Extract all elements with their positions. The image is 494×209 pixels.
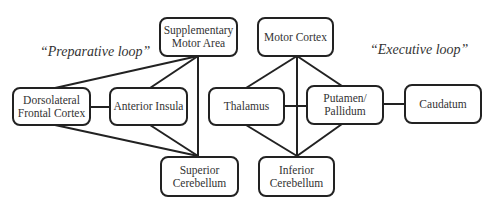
node-label: Caudatum xyxy=(419,98,466,111)
node-label: Pallidum xyxy=(324,105,366,117)
edge-dlpfc-supcereb xyxy=(55,125,198,156)
node-label: Cerebellum xyxy=(173,177,227,189)
node-label: Putamen/ xyxy=(323,92,366,104)
edge-thalamus-infcereb xyxy=(246,125,297,156)
node-superior-cerebellum: SuperiorCerebellum xyxy=(160,156,239,197)
node-caudatum: Caudatum xyxy=(404,84,482,124)
node-dorsolateral-frontal-cortex: DorsolateralFrontal Cortex xyxy=(12,87,91,126)
edge-putamen-infcereb xyxy=(297,124,342,156)
node-label: Cerebellum xyxy=(270,177,324,189)
node-label: Inferior xyxy=(279,164,314,176)
node-supplementary-motor-area: SupplementaryMotor Area xyxy=(159,17,238,57)
node-label: Frontal Cortex xyxy=(18,107,85,119)
node-label: Supplementary xyxy=(164,24,234,36)
node-label: Motor Cortex xyxy=(264,31,327,44)
node-label: Superior xyxy=(180,164,220,176)
executive-loop-label: “Executive loop” xyxy=(370,42,468,58)
edge-mc-thalamus xyxy=(246,56,297,88)
node-putamen-pallidum: Putamen/Pallidum xyxy=(306,85,384,125)
edge-sma-dlpfc xyxy=(55,56,198,88)
node-motor-cortex: Motor Cortex xyxy=(257,17,334,57)
node-label: Dorsolateral xyxy=(23,94,80,106)
node-thalamus: Thalamus xyxy=(208,87,285,126)
edge-mc-putamen xyxy=(297,56,342,86)
node-anterior-insula: Anterior Insula xyxy=(109,87,188,126)
node-label: Thalamus xyxy=(224,100,269,113)
preparative-loop-label: “Preparative loop” xyxy=(40,44,150,60)
node-inferior-cerebellum: InferiorCerebellum xyxy=(258,156,335,197)
node-label: Motor Area xyxy=(172,37,225,49)
node-label: Anterior Insula xyxy=(114,100,184,113)
